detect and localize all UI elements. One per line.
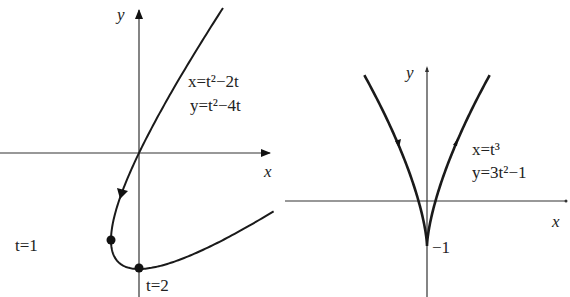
point-t2 — [135, 264, 144, 273]
right-branch-arrow-icon — [453, 138, 458, 146]
left-y-axis-label: y — [115, 5, 125, 24]
left-x-axis-label: x — [263, 162, 272, 181]
right-equation-x: x=t³ — [472, 140, 500, 159]
left-equation-y: y=t²−4t — [190, 96, 241, 115]
left-parametric-curve — [111, 8, 274, 269]
label-t1: t=1 — [15, 236, 38, 255]
right-y-axis-label: y — [404, 63, 414, 82]
left-equation-x: x=t²−2t — [188, 72, 239, 91]
label-t2: t=2 — [146, 276, 169, 295]
figure: y x x=t²−2t y=t²−4t t=1 t=2 y x x=t³ y=3… — [0, 0, 570, 297]
left-plot: y x x=t²−2t y=t²−4t t=1 t=2 — [0, 5, 274, 297]
direction-arrow-icon — [117, 188, 128, 199]
right-y-axis-arrow-icon — [425, 66, 429, 72]
right-x-axis-end — [565, 200, 568, 203]
right-x-axis-label: x — [551, 212, 560, 231]
point-t1 — [107, 236, 116, 245]
right-plot: y x x=t³ y=3t²−1 −1 — [285, 63, 568, 297]
right-tick-label-minus-1: −1 — [432, 238, 450, 257]
right-equation-y: y=3t²−1 — [472, 163, 527, 182]
